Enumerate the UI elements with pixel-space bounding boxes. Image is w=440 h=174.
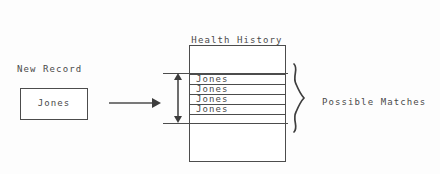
- health-history-file-box: Jones Jones Jones Jones: [189, 45, 286, 162]
- record-value: Jones: [196, 104, 229, 114]
- record-value: Jones: [196, 94, 229, 104]
- record-value: Jones: [196, 84, 229, 94]
- possible-matches-label: Possible Matches: [322, 96, 426, 108]
- new-record-value: Jones: [21, 98, 87, 108]
- table-row: Jones: [190, 105, 285, 115]
- new-record-label: New Record: [17, 63, 82, 75]
- arrow-right-icon: [108, 95, 162, 111]
- diagram-canvas: Health History File New Record Jones Jon…: [0, 0, 440, 174]
- double-headed-vertical-arrow-icon: [170, 72, 186, 124]
- curly-brace-icon: [288, 62, 308, 134]
- record-value: Jones: [196, 74, 229, 84]
- new-record-box: Jones: [20, 88, 88, 120]
